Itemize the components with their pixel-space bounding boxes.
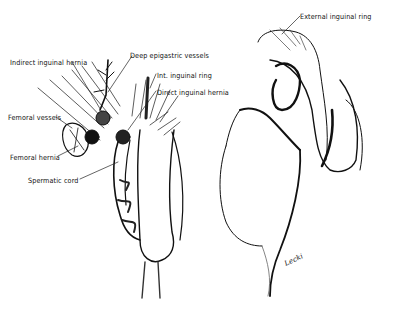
label-deep-epigastric-vessels: Deep epigastric vessels [130,51,209,60]
hernia-illustration: Indirect inguinal hernia Deep epigastric… [0,0,393,309]
label-direct-inguinal-hernia: Direct inguinal hernia [157,88,229,97]
label-external-inguinal-ring: External inguinal ring [300,12,372,21]
label-femoral-hernia: Femoral hernia [10,153,60,162]
label-indirect-inguinal-hernia: Indirect inguinal hernia [10,58,87,67]
label-femoral-vessels: Femoral vessels [8,113,61,122]
label-spermatic-cord: Spermatic cord [28,176,78,185]
label-int-inguinal-ring: Int. inguinal ring [157,71,212,80]
